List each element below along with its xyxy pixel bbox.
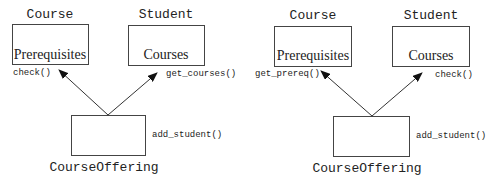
diagram-canvas: Course Prerequisites check() Student Cou… <box>0 0 493 185</box>
course-attribute: Prerequisites <box>277 48 349 63</box>
offering-box <box>72 116 146 156</box>
course-attribute: Prerequisites <box>14 47 86 62</box>
student-attribute: Courses <box>408 48 453 63</box>
diagram-left: Course Prerequisites check() Student Cou… <box>13 7 237 175</box>
course-method: check() <box>13 68 51 78</box>
diagram-right: Course Prerequisites get_prereq() Studen… <box>255 8 486 176</box>
student-method: get_courses() <box>166 69 236 79</box>
offering-method: add_student() <box>152 130 222 140</box>
offering-title: CourseOffering <box>49 160 158 175</box>
offering-title: CourseOffering <box>312 161 421 176</box>
arrow-to-student <box>108 73 157 115</box>
offering-box <box>334 117 410 157</box>
course-method: get_prereq() <box>255 69 320 79</box>
student-title: Student <box>404 8 459 23</box>
student-method: check() <box>435 70 473 80</box>
student-attribute: Courses <box>143 47 188 62</box>
arrow-to-student <box>372 73 422 116</box>
student-title: Student <box>139 7 194 22</box>
arrow-to-course <box>59 70 108 115</box>
offering-method: add_student() <box>416 131 486 141</box>
course-title: Course <box>27 7 74 22</box>
arrow-to-course <box>321 71 372 116</box>
course-title: Course <box>290 8 337 23</box>
